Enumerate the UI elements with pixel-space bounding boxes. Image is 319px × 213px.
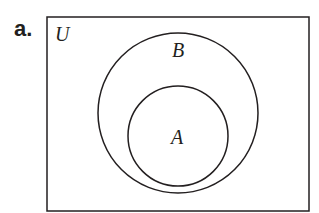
set-b-label: B bbox=[172, 39, 184, 61]
venn-diagram: U B A bbox=[0, 0, 319, 213]
set-a-label: A bbox=[169, 126, 184, 148]
universe-label: U bbox=[55, 23, 71, 45]
